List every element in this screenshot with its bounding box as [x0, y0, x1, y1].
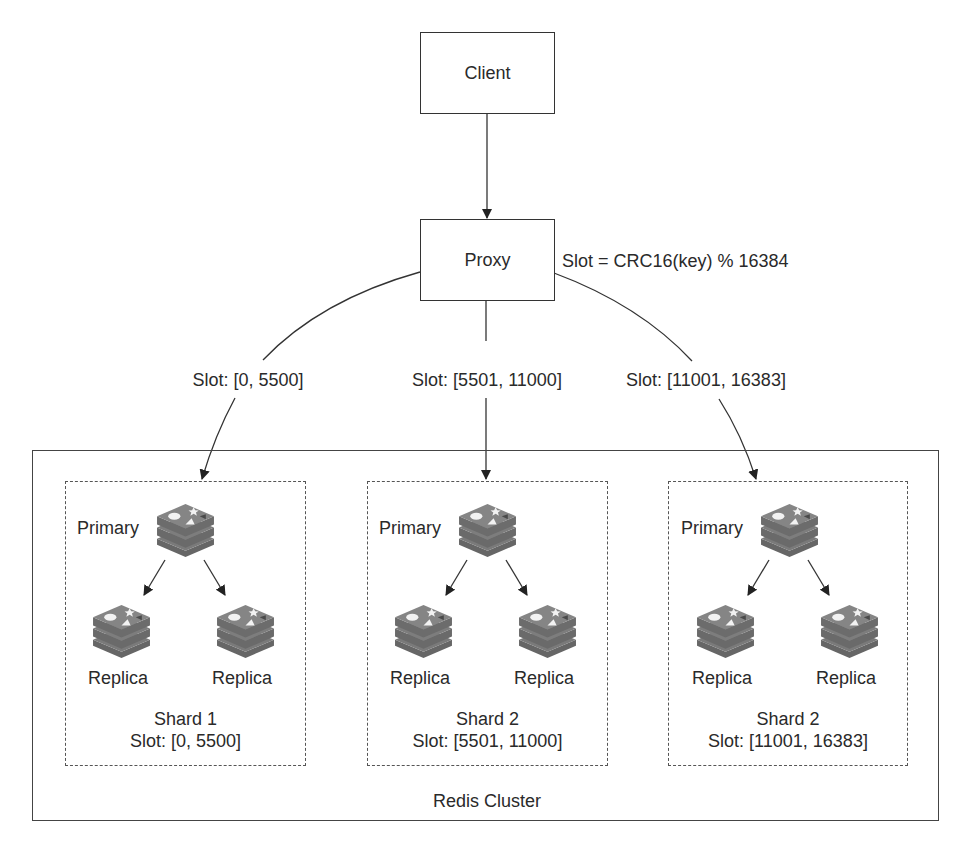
shard-slot-range: Slot: [5501, 11000] — [368, 730, 607, 752]
shard-name: Shard 2 — [368, 708, 607, 730]
route-label-shard1: Slot: [0, 5500] — [192, 371, 303, 389]
replica-label: Replica — [514, 669, 574, 687]
redis-logo-icon — [819, 603, 880, 658]
redis-logo-icon — [91, 603, 152, 658]
redis-logo-icon — [393, 603, 454, 658]
shard-name: Shard 2 — [669, 708, 907, 730]
shard-slot-range: Slot: [0, 5500] — [66, 730, 305, 752]
redis-logo-icon — [759, 502, 820, 557]
redis-cluster-label: Redis Cluster — [433, 792, 541, 810]
client-node: Client — [420, 32, 555, 114]
shard-caption: Shard 2 Slot: [5501, 11000] — [368, 708, 607, 752]
redis-cluster-diagram: Client Proxy Slot = CRC16(key) % 16384 S… — [0, 0, 966, 851]
primary-label: Primary — [681, 519, 743, 537]
redis-logo-icon — [517, 603, 578, 658]
shard-caption: Shard 1 Slot: [0, 5500] — [66, 708, 305, 752]
proxy-label: Proxy — [464, 250, 510, 271]
replica-label: Replica — [390, 669, 450, 687]
proxy-to-shard1-curve-upper — [263, 272, 420, 360]
redis-logo-icon — [695, 603, 756, 658]
redis-logo-icon — [215, 603, 276, 658]
redis-logo-icon — [155, 502, 216, 557]
replica-label: Replica — [692, 669, 752, 687]
hash-formula-label: Slot = CRC16(key) % 16384 — [562, 252, 789, 270]
shard-name: Shard 1 — [66, 708, 305, 730]
proxy-to-shard3-curve-upper — [554, 273, 692, 361]
proxy-node: Proxy — [420, 219, 555, 301]
replica-label: Replica — [816, 669, 876, 687]
shard-slot-range: Slot: [11001, 16383] — [669, 730, 907, 752]
shard-caption: Shard 2 Slot: [11001, 16383] — [669, 708, 907, 752]
replica-label: Replica — [88, 669, 148, 687]
redis-logo-icon — [457, 502, 518, 557]
replica-label: Replica — [212, 669, 272, 687]
client-label: Client — [464, 63, 510, 84]
route-label-shard3: Slot: [11001, 16383] — [626, 371, 786, 389]
route-label-shard2: Slot: [5501, 11000] — [412, 371, 562, 389]
primary-label: Primary — [77, 519, 139, 537]
primary-label: Primary — [379, 519, 441, 537]
